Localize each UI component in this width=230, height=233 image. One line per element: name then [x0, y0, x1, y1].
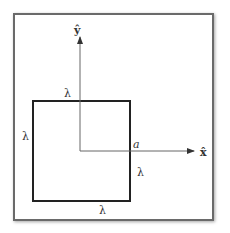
lambda-left-label: λ	[22, 131, 29, 142]
lambda-top-label: λ	[64, 88, 71, 99]
a-label: a	[133, 139, 140, 150]
lambda-right-label: λ	[137, 167, 144, 178]
y-axis-label: ŷ	[74, 25, 80, 36]
diagram-canvas	[0, 0, 230, 233]
x-axis-label: x̂	[200, 147, 207, 158]
lambda-bottom-label: λ	[99, 205, 106, 216]
